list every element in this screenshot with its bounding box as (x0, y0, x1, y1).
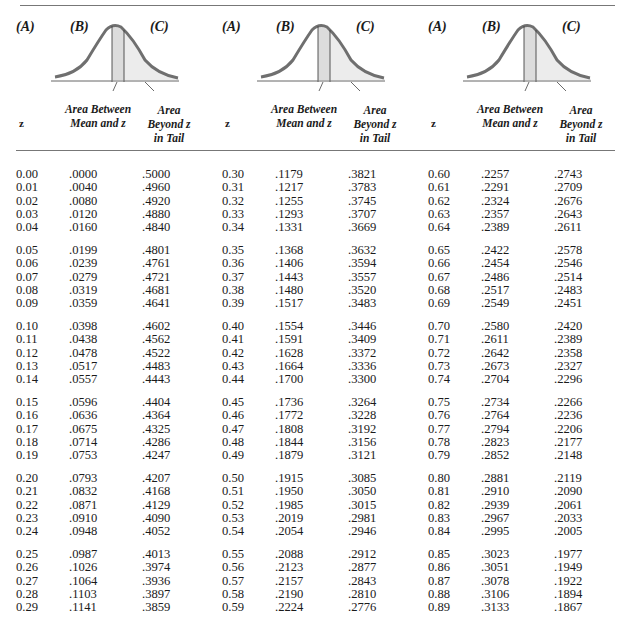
area-between-value: .2422 (481, 244, 509, 257)
z-value: 0.32 (222, 195, 244, 208)
area-tail-value: .4325 (142, 423, 170, 436)
area-tail-value: .3015 (348, 499, 376, 512)
z-value: 0.23 (16, 512, 38, 525)
area-tail-value: .1949 (554, 561, 582, 574)
area-tail-value: .4801 (142, 244, 170, 257)
area-tail-value: .1922 (554, 575, 582, 588)
z-value: 0.26 (16, 561, 38, 574)
z-value: 0.07 (16, 271, 38, 284)
z-value: 0.22 (16, 499, 38, 512)
z-value: 0.03 (16, 208, 38, 221)
area-tail-value: .2389 (554, 333, 582, 346)
area-between-value: .0199 (69, 244, 97, 257)
area-between-value: .2224 (275, 601, 303, 614)
area-between-value: .2257 (481, 168, 509, 181)
z-value: 0.52 (222, 499, 244, 512)
col-a-letter: (A) (16, 19, 35, 35)
z-value: 0.21 (16, 485, 38, 498)
area-between-value: .2734 (481, 396, 509, 409)
z-value: 0.68 (428, 284, 450, 297)
area-between-value: .0753 (69, 449, 97, 462)
area-between-value: .0000 (69, 168, 97, 181)
area-between-value: .2939 (481, 499, 509, 512)
area-tail-value: .3936 (142, 575, 170, 588)
area-between-value: .0478 (69, 347, 97, 360)
area-tail-value: .3821 (348, 168, 376, 181)
z-value: 0.41 (222, 333, 244, 346)
area-between-value: .2123 (275, 561, 303, 574)
area-tail-value: .2611 (554, 221, 582, 234)
z-value: 0.56 (222, 561, 244, 574)
area-between-value: .1591 (275, 333, 303, 346)
area-tail-value: .2148 (554, 449, 582, 462)
area-tail-value: .3974 (142, 561, 170, 574)
area-between-value: .1103 (69, 588, 97, 601)
area-tail-value: .3050 (348, 485, 376, 498)
z-value: 0.82 (428, 499, 450, 512)
z-value: 0.38 (222, 284, 244, 297)
z-value: 0.06 (16, 257, 38, 270)
col-a-letter: (A) (428, 19, 447, 35)
area-tail-value: .4920 (142, 195, 170, 208)
area-tail-value: .4721 (142, 271, 170, 284)
area-between-value: .2794 (481, 423, 509, 436)
header-rule (16, 150, 615, 151)
area-between-value: .2642 (481, 347, 509, 360)
area-tail-value: .2483 (554, 284, 582, 297)
area-tail-value: .4207 (142, 472, 170, 485)
z-value: 0.57 (222, 575, 244, 588)
z-value: 0.74 (428, 373, 450, 386)
z-value: 0.02 (16, 195, 38, 208)
area-beyond-label: Area Beyond z in Tail (340, 103, 410, 145)
area-between-value: .2881 (481, 472, 509, 485)
z-value: 0.18 (16, 436, 38, 449)
z-value: 0.88 (428, 588, 450, 601)
z-value: 0.63 (428, 208, 450, 221)
area-tail-value: .2451 (554, 297, 582, 310)
area-between-value: .0596 (69, 396, 97, 409)
area-between-value: .3133 (481, 601, 509, 614)
z-value: 0.81 (428, 485, 450, 498)
z-value: 0.24 (16, 525, 38, 538)
area-between-label: Area Between Mean and z (48, 102, 148, 130)
z-value: 0.72 (428, 347, 450, 360)
z-value: 0.67 (428, 271, 450, 284)
area-tail-value: .3192 (348, 423, 376, 436)
area-between-value: .1772 (275, 409, 303, 422)
area-between-value: .1255 (275, 195, 303, 208)
z-column-label: z (19, 117, 24, 129)
z-value: 0.36 (222, 257, 244, 270)
area-between-value: .2967 (481, 512, 509, 525)
area-tail-value: .3228 (348, 409, 376, 422)
z-value: 0.55 (222, 548, 244, 561)
z-value: 0.16 (16, 409, 38, 422)
area-tail-value: .2946 (348, 525, 376, 538)
area-tail-value: .3897 (142, 588, 170, 601)
z-value: 0.50 (222, 472, 244, 485)
area-between-value: .1517 (275, 297, 303, 310)
area-tail-value: .2546 (554, 257, 582, 270)
z-value: 0.53 (222, 512, 244, 525)
area-between-value: .1950 (275, 485, 303, 498)
area-tail-value: .2810 (348, 588, 376, 601)
area-between-value: .1554 (275, 320, 303, 333)
area-tail-value: .3483 (348, 297, 376, 310)
area-between-value: .0793 (69, 472, 97, 485)
area-tail-value: .2327 (554, 360, 582, 373)
area-between-value: .2454 (481, 257, 509, 270)
z-value: 0.80 (428, 472, 450, 485)
area-between-value: .1808 (275, 423, 303, 436)
area-tail-value: .4052 (142, 525, 170, 538)
area-tail-value: .3336 (348, 360, 376, 373)
z-value: 0.69 (428, 297, 450, 310)
z-value: 0.83 (428, 512, 450, 525)
z-value: 0.78 (428, 436, 450, 449)
area-between-value: .0832 (69, 485, 97, 498)
area-tail-value: .2206 (554, 423, 582, 436)
area-between-value: .0120 (69, 208, 97, 221)
area-tail-value: .4602 (142, 320, 170, 333)
area-tail-value: .3085 (348, 472, 376, 485)
z-value: 0.76 (428, 409, 450, 422)
area-between-value: .1844 (275, 436, 303, 449)
area-between-value: .2764 (481, 409, 509, 422)
